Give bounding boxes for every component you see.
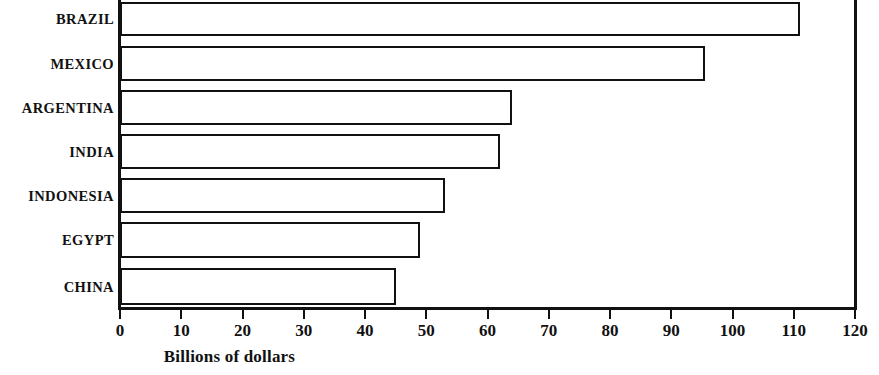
x-tick-label-20: 20 (234, 322, 251, 339)
x-tick-mark-120 (854, 310, 856, 319)
x-tick-label-80: 80 (602, 322, 619, 339)
x-tick-mark-10 (180, 310, 182, 319)
bar-indonesia (120, 178, 445, 213)
bar-brazil (120, 2, 800, 36)
x-tick-label-10: 10 (173, 322, 190, 339)
bar-egypt (120, 222, 420, 258)
x-tick-mark-60 (487, 310, 489, 319)
x-tick-mark-30 (303, 310, 305, 319)
x-tick-mark-50 (425, 310, 427, 319)
bar-argentina (120, 90, 512, 125)
bar-chart: BRAZILMEXICOARGENTINAINDIAINDONESIAEGYPT… (0, 0, 879, 375)
x-tick-label-100: 100 (720, 322, 746, 339)
category-label-indonesia: INDONESIA (28, 189, 114, 204)
x-tick-mark-20 (242, 310, 244, 319)
category-label-india: INDIA (69, 145, 114, 160)
x-tick-mark-90 (670, 310, 672, 319)
x-tick-label-70: 70 (540, 322, 557, 339)
x-tick-label-50: 50 (418, 322, 435, 339)
x-tick-mark-110 (793, 310, 795, 319)
x-tick-mark-80 (609, 310, 611, 319)
y-axis-line (118, 0, 121, 310)
plot-area (120, 0, 855, 308)
x-axis-title: Billions of dollars (0, 348, 879, 365)
category-label-brazil: BRAZIL (56, 12, 114, 27)
x-tick-label-90: 90 (663, 322, 680, 339)
bar-mexico (120, 46, 705, 81)
x-tick-mark-40 (364, 310, 366, 319)
x-tick-mark-0 (119, 310, 121, 319)
x-tick-label-40: 40 (357, 322, 374, 339)
x-tick-label-0: 0 (116, 322, 125, 339)
x-axis-title-text: Billions of dollars (164, 348, 295, 365)
right-boundary-line (854, 0, 857, 310)
category-label-mexico: MEXICO (50, 57, 114, 72)
x-tick-mark-70 (548, 310, 550, 319)
x-tick-label-30: 30 (295, 322, 312, 339)
bar-india (120, 134, 500, 169)
category-label-argentina: ARGENTINA (22, 101, 114, 116)
x-tick-label-60: 60 (479, 322, 496, 339)
category-label-china: CHINA (64, 280, 114, 295)
bar-china (120, 268, 396, 305)
x-tick-label-110: 110 (781, 322, 806, 339)
x-tick-mark-100 (732, 310, 734, 319)
category-label-egypt: EGYPT (62, 233, 114, 248)
x-tick-label-120: 120 (842, 322, 868, 339)
